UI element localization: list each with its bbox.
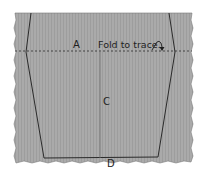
- label-c: C: [103, 97, 110, 107]
- pattern-diagram: [0, 0, 201, 182]
- label-d: D: [107, 159, 115, 169]
- label-a: A: [73, 40, 80, 50]
- fold-instruction-label: Fold to trace.: [98, 40, 161, 50]
